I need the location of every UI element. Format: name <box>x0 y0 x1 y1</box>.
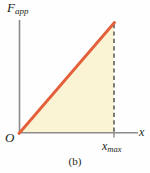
y-axis-symbol: F <box>7 0 15 15</box>
xmax-subscript: max <box>107 144 121 154</box>
force-displacement-figure: Fapp x O xmax (b) <box>0 0 150 173</box>
figure-caption: (b) <box>0 155 150 167</box>
origin-label: O <box>5 131 14 144</box>
plot-area <box>0 0 150 173</box>
xmax-tick-label: xmax <box>102 140 122 154</box>
y-axis-label: Fapp <box>7 1 28 16</box>
x-axis-label: x <box>139 126 144 138</box>
y-axis-subscript: app <box>15 6 29 16</box>
